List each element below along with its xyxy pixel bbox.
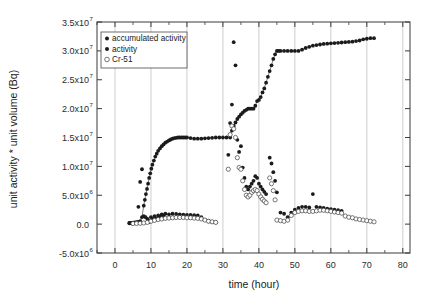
- data-point: [271, 57, 275, 61]
- data-point: [237, 150, 241, 154]
- y-tick-label-2: 2.5x107: [62, 73, 94, 85]
- figure-container: 01020304050607080 3.5x1073.0x1072.5x1072…: [0, 0, 429, 305]
- data-point: [268, 69, 272, 73]
- scatter-plot: 01020304050607080 3.5x1073.0x1072.5x1072…: [0, 0, 429, 305]
- data-point: [149, 167, 153, 171]
- data-point: [307, 45, 311, 49]
- y-tick-label-mantissa-8: -5.0x10: [59, 249, 89, 259]
- data-point: [151, 163, 155, 167]
- data-point: [234, 121, 238, 125]
- data-point: [144, 192, 148, 196]
- data-point: [185, 136, 189, 140]
- y-tick-label-0: 3.5x107: [62, 16, 94, 28]
- data-point: [148, 171, 152, 175]
- data-point: [226, 153, 230, 157]
- data-point: [340, 41, 344, 45]
- y-tick-label-mantissa-7: 0.0: [76, 220, 89, 230]
- y-tick-label-7: 0.0: [76, 220, 89, 230]
- data-point: [270, 63, 274, 67]
- data-point: [255, 176, 259, 180]
- data-point: [273, 198, 277, 202]
- data-point: [282, 212, 286, 216]
- data-point: [343, 40, 347, 44]
- data-point: [354, 39, 358, 43]
- legend-label-0: accumulated activity: [112, 34, 187, 43]
- data-point: [241, 179, 245, 183]
- data-point: [286, 218, 290, 222]
- data-point: [286, 49, 290, 53]
- legend-marker-2: [105, 57, 110, 62]
- data-point: [361, 37, 365, 41]
- data-point: [239, 144, 243, 148]
- data-point: [289, 49, 293, 53]
- data-point: [297, 49, 301, 53]
- x-tick-label-3: 30: [218, 260, 228, 270]
- data-point: [242, 187, 246, 191]
- data-point: [289, 213, 293, 217]
- y-tick-label-mantissa-3: 2.0x10: [62, 104, 89, 114]
- data-point: [266, 75, 270, 79]
- data-point: [329, 41, 333, 45]
- legend-marker-1: [105, 47, 109, 51]
- data-point: [192, 137, 196, 141]
- data-point: [138, 180, 142, 184]
- y-tick-label-mantissa-1: 3.0x10: [62, 46, 89, 56]
- data-point: [221, 136, 225, 140]
- x-tick-label-8: 80: [398, 260, 408, 270]
- data-point: [225, 136, 229, 140]
- data-point: [293, 49, 297, 53]
- data-point: [199, 137, 203, 141]
- data-point: [318, 43, 322, 47]
- data-point: [304, 46, 308, 50]
- y-tick-label-8: -5.0x106: [59, 247, 94, 259]
- x-tick-label-6: 60: [326, 260, 336, 270]
- data-point: [235, 156, 239, 160]
- data-point: [268, 156, 272, 160]
- data-point: [273, 52, 277, 56]
- data-point: [273, 179, 277, 183]
- data-point: [264, 81, 268, 85]
- data-point: [270, 162, 274, 166]
- y-axis-title: unit activity * unit volume (Bq): [7, 70, 19, 208]
- data-point: [253, 104, 257, 108]
- data-point: [271, 170, 275, 174]
- data-point: [279, 49, 283, 53]
- y-tick-label-1: 3.0x107: [62, 44, 94, 56]
- x-tick-label-5: 50: [290, 260, 300, 270]
- data-point: [232, 40, 236, 44]
- data-point: [142, 204, 146, 208]
- data-point: [268, 176, 272, 180]
- data-point: [300, 205, 304, 209]
- data-point: [189, 136, 193, 140]
- x-tick-label-0: 0: [112, 260, 117, 270]
- data-point: [171, 212, 175, 216]
- y-tick-label-4: 1.5x107: [62, 131, 94, 143]
- data-point: [347, 40, 351, 44]
- data-point: [369, 36, 373, 40]
- x-tick-label-4: 40: [254, 260, 264, 270]
- data-point: [207, 136, 211, 140]
- data-point: [259, 95, 263, 99]
- data-point: [203, 136, 207, 140]
- data-point: [271, 189, 275, 193]
- data-point: [358, 39, 362, 43]
- y-tick-label-mantissa-4: 1.5x10: [62, 133, 89, 143]
- x-axis-title: time (hour): [229, 278, 280, 290]
- legend: accumulated activityactivityCr-51: [101, 32, 187, 68]
- data-point: [136, 205, 140, 209]
- x-tick-label-2: 20: [182, 260, 192, 270]
- data-point: [145, 187, 149, 191]
- data-point: [217, 136, 221, 140]
- data-point: [269, 182, 273, 186]
- data-point: [311, 192, 315, 196]
- data-point: [315, 43, 319, 47]
- data-point: [210, 136, 214, 140]
- y-tick-label-3: 2.0x107: [62, 102, 94, 114]
- data-point: [307, 205, 311, 209]
- data-point: [322, 42, 326, 46]
- data-point: [214, 136, 218, 140]
- y-tick-label-6: 5.0x106: [62, 189, 94, 201]
- data-point: [228, 133, 232, 137]
- data-point: [264, 192, 268, 196]
- data-point: [232, 127, 236, 131]
